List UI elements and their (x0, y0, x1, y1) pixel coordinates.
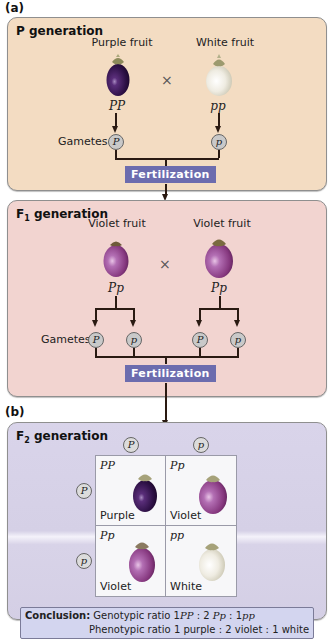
f2-column-gamete-1: P (123, 437, 139, 453)
p-gamete-2: p (211, 134, 227, 150)
f1-left-parent-label: Violet fruit (72, 217, 162, 230)
phenotypic-ratio-line: Phenotypic ratio 1 purple : 2 violet : 1… (89, 624, 309, 635)
purple-eggplant-icon (104, 52, 132, 98)
f2-row-gamete-2: p (76, 553, 92, 569)
f1-gamete-3: P (192, 332, 208, 348)
p-right-genotype: pp (198, 99, 238, 113)
f2-column-gamete-2: p (193, 437, 209, 453)
conclusion-box: Conclusion: Genotypic ratio 1PP : 2 Pp :… (20, 607, 314, 639)
f1-right-parent-label: Violet fruit (177, 217, 267, 230)
f2-generation-title: F2 generation (16, 429, 108, 445)
p-gamete-1: P (108, 134, 124, 150)
f2-row-gamete-1: P (76, 483, 92, 499)
conclusion-label: Conclusion: (25, 610, 90, 621)
white-eggplant-icon (203, 52, 235, 98)
p-left-genotype: PP (97, 99, 137, 113)
p-right-parent-label: White fruit (180, 36, 270, 49)
p-left-parent-label: Purple fruit (77, 36, 167, 49)
purple-eggplant-icon (130, 466, 160, 514)
violet-eggplant-icon (101, 233, 131, 279)
violet-eggplant-icon (126, 534, 158, 584)
f1-cross-symbol: × (159, 256, 171, 272)
f1-gamete-1: P (88, 332, 104, 348)
white-eggplant-icon (196, 534, 228, 584)
part-b-label: (b) (5, 405, 25, 419)
punnett-cell-pp-violet: Pp Violet (166, 456, 236, 526)
p-fertilization-label: Fertilization (125, 166, 216, 183)
f1-right-genotype: Pp (199, 281, 239, 295)
f1-gamete-2: p (126, 332, 142, 348)
p-gametes-label: Gametes (58, 135, 108, 148)
punnett-square: PP Purple Pp Violet Pp Violet pp White (95, 455, 237, 597)
f1-fertilization-label: Fertilization (125, 365, 216, 382)
punnett-cell-pp-violet-2: Pp Violet (96, 526, 166, 596)
p-cross-symbol: × (161, 72, 173, 88)
f1-gamete-4: p (230, 332, 246, 348)
p-generation-panel: P generation (7, 17, 327, 191)
punnett-cell-pp-white: pp White (166, 526, 236, 596)
f1-gametes-label: Gametes (41, 333, 91, 346)
genotypic-ratio-line: Conclusion: Genotypic ratio 1PP : 2 Pp :… (25, 610, 255, 621)
f1-left-genotype: Pp (96, 281, 136, 295)
violet-eggplant-icon (202, 231, 236, 281)
punnett-cell-pp-purple: PP Purple (96, 456, 166, 526)
part-a-label: (a) (5, 1, 24, 15)
